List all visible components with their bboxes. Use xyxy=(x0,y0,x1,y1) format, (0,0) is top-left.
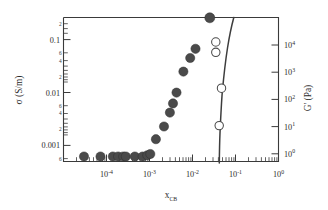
data-point-filled xyxy=(121,152,130,161)
y-axis-right-ticks xyxy=(272,45,279,154)
data-point-filled xyxy=(146,149,155,158)
data-point-filled xyxy=(172,88,181,97)
data-point-filled xyxy=(191,44,200,53)
y-axis-left-minor-ticks xyxy=(64,24,68,159)
y-left-minor-label-4: 6 xyxy=(59,103,62,109)
data-point-open xyxy=(212,38,220,46)
y-left-minor-label-1: 6 xyxy=(59,50,62,56)
y-left-minor-label-5: 4 xyxy=(59,110,62,116)
y-left-minor-label-2: 4 xyxy=(59,58,62,64)
x-axis-title-sub: CB xyxy=(169,196,177,202)
y-right-ticklabel-3: 101 xyxy=(284,121,295,131)
x-ticklabel-0: 10-4 xyxy=(100,169,113,179)
y-right-ticklabel-0: 104 xyxy=(284,40,295,50)
data-point-filled xyxy=(205,13,215,23)
y-axis-right-title: G' (Pa) xyxy=(303,85,314,111)
y-right-ticklabel-group: 104 103 102 101 100 xyxy=(284,40,295,159)
data-point-filled xyxy=(168,99,177,108)
data-point-filled xyxy=(179,67,188,76)
data-point-filled xyxy=(151,135,160,144)
x-axis-title: xCB xyxy=(165,190,178,202)
y-right-ticklabel-4: 100 xyxy=(284,148,295,158)
data-point-filled xyxy=(96,152,105,161)
data-point-open xyxy=(212,48,220,56)
y-left-ticklabel-1: 0.01 xyxy=(46,89,60,98)
conductivity-series xyxy=(79,13,214,161)
y-left-ticklabel-0: 0.1 xyxy=(50,36,60,45)
plot-frame xyxy=(64,18,279,162)
x-ticklabel-2: 10-2 xyxy=(186,169,199,179)
data-point-filled xyxy=(159,122,168,131)
x-ticklabel-group: 10-4 10-3 10-2 10-1 100 xyxy=(100,169,284,179)
y-right-ticklabel-1: 103 xyxy=(284,67,295,77)
y-left-minor-label-6: 2 xyxy=(59,126,62,132)
y-left-minor-label-3: 2 xyxy=(59,74,62,80)
y-left-minor-label-0: 2 xyxy=(59,21,62,27)
y-right-ticklabel-2: 102 xyxy=(284,94,295,104)
x-ticklabel-3: 10-1 xyxy=(229,169,242,179)
conductivity-modulus-chart: 0.1 0.01 0.001 2 6 4 2 6 4 2 6 104 103 1… xyxy=(0,0,328,210)
data-point-open xyxy=(215,121,223,129)
data-point-open xyxy=(217,84,225,92)
data-point-filled xyxy=(79,152,88,161)
y-axis-left-title: σ (S/m) xyxy=(14,76,25,105)
y-left-minor-label-7: 6 xyxy=(59,156,62,162)
y-left-ticklabel-2: 0.001 xyxy=(42,141,60,150)
data-point-filled xyxy=(186,53,195,62)
figure-container: 0.1 0.01 0.001 2 6 4 2 6 4 2 6 104 103 1… xyxy=(0,0,328,210)
data-point-filled xyxy=(165,108,174,117)
x-ticklabel-4: 100 xyxy=(273,169,284,179)
x-ticklabel-1: 10-3 xyxy=(143,169,156,179)
